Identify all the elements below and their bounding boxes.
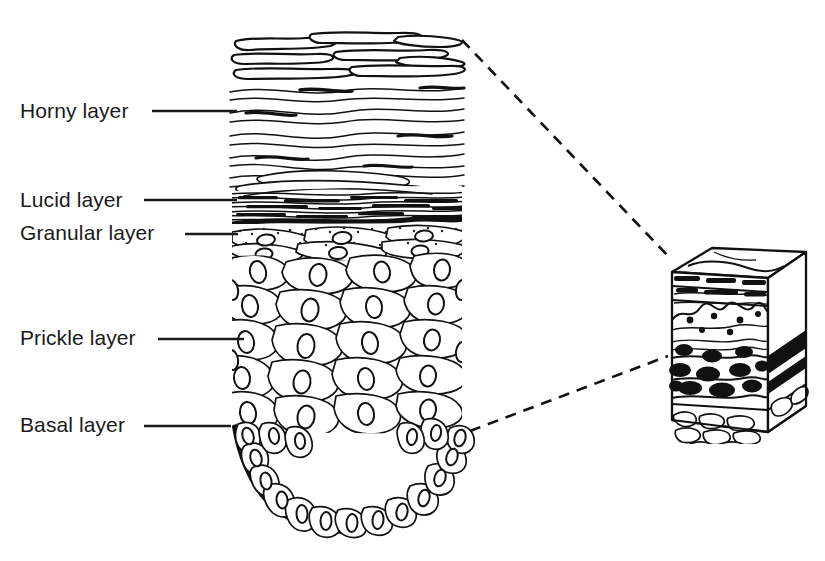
label-horny-layer: Horny layer bbox=[20, 99, 128, 122]
prickle-layer-group bbox=[214, 253, 472, 436]
lucid-layer-group bbox=[228, 186, 468, 226]
label-basal-layer: Basal layer bbox=[20, 413, 125, 436]
label-granular-layer: Granular layer bbox=[20, 221, 154, 244]
label-lucid-layer: Lucid layer bbox=[20, 188, 123, 211]
label-prickle-layer: Prickle layer bbox=[20, 326, 136, 349]
epidermis-figure: Horny layer Lucid layer Granular layer P… bbox=[0, 0, 825, 561]
figure-canvas: Horny layer Lucid layer Granular layer P… bbox=[0, 0, 825, 561]
